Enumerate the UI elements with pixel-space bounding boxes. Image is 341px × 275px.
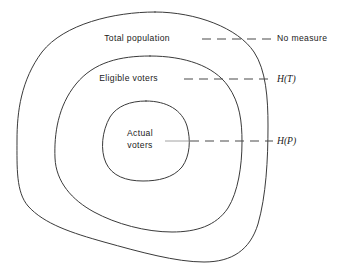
label-h-of-p: H(P)	[276, 135, 296, 147]
label-actual-voters-line1: Actual	[127, 128, 153, 138]
label-total-population: Total population	[104, 33, 170, 43]
diagram-canvas: Total population No measure Eligible vot…	[0, 0, 341, 275]
label-no-measure: No measure	[277, 33, 327, 43]
nested-contour-diagram: Total population No measure Eligible vot…	[0, 0, 341, 275]
label-h-of-t: H(T)	[276, 73, 296, 85]
label-actual-voters-line2: voters	[127, 140, 153, 150]
label-eligible-voters: Eligible voters	[99, 73, 158, 83]
